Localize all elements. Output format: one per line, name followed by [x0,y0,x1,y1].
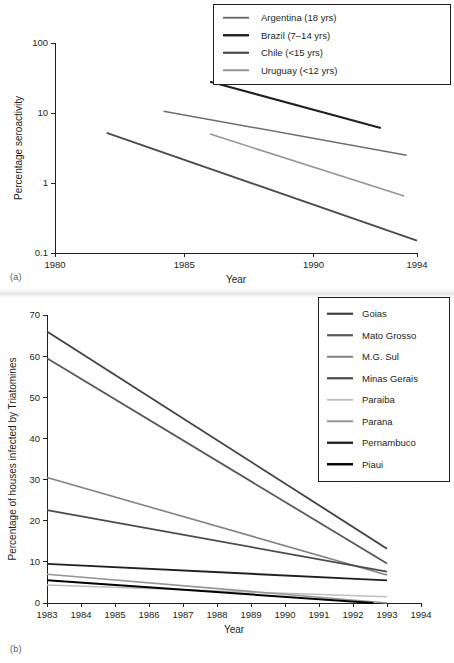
x-tick-label: 1991 [308,609,329,620]
y-axis-title: Percentage of houses infected by Triatom… [7,358,18,561]
y-tick-label: 60 [29,351,40,362]
y-tick-label: 10 [37,107,48,118]
y-tick-label: 40 [29,433,40,444]
figure-container: 0.11101001980198519901994YearPercentage … [0,0,454,663]
legend-label: Argentina (18 yrs) [261,12,337,23]
legend-label: M.G. Sul [362,351,399,362]
series-line-uruguay-12-yrs [210,134,404,196]
x-tick-label: 1992 [342,609,363,620]
series-line-brazil-7-14-yrs [210,82,381,128]
x-tick-label: 1987 [172,609,193,620]
legend-box [318,297,449,481]
series-line-argentina-18-yrs [164,111,407,155]
y-tick-label: 1 [43,177,48,188]
y-tick-label: 0.1 [35,247,48,258]
legend-label: Mato Grosso [362,330,416,341]
triatomine-infestation-chart: 0102030405060701983198419851986198719881… [0,292,454,663]
x-tick-label: 1990 [274,609,295,620]
x-axis-title: Year [226,274,247,285]
panel-b-label: (b) [10,644,22,654]
x-tick-label: 1986 [138,609,159,620]
legend-label: Paraiba [362,394,395,405]
seroactivity-chart: 0.11101001980198519901994YearPercentage … [0,0,454,292]
y-tick-label: 100 [32,37,48,48]
x-tick-label: 1985 [174,259,195,270]
x-tick-label: 1980 [44,259,65,270]
y-tick-label: 20 [29,515,40,526]
x-tick-label: 1994 [410,609,431,620]
y-tick-label: 0 [35,597,40,608]
x-axis-title: Year [224,624,245,635]
x-tick-label: 1990 [303,259,324,270]
chart-panel-b: 0102030405060701983198419851986198719881… [0,292,454,663]
legend-label: Uruguay (<12 yrs) [261,65,337,76]
panel-a-label: (a) [10,272,22,282]
legend-label: Parana [362,416,393,427]
y-tick-label: 50 [29,392,40,403]
y-tick-label: 70 [29,309,40,320]
x-tick-label: 1989 [240,609,261,620]
legend-label: Piaui [362,459,383,470]
x-tick-label: 1985 [104,609,125,620]
series-line-paraiba [47,585,387,597]
y-axis-title: Percentage seroactivity [13,96,24,200]
x-tick-label: 1983 [36,609,57,620]
chart-panel-a: 0.11101001980198519901994YearPercentage … [0,0,454,292]
x-tick-label: 1993 [376,609,397,620]
legend-label: Brazil (7–14 yrs) [261,30,330,41]
series-line-piaui [47,580,373,603]
legend-label: Minas Gerais [362,373,418,384]
x-tick-label: 1994 [406,259,427,270]
series-line-minas-gerais [47,510,387,572]
y-tick-label: 30 [29,474,40,485]
y-tick-label: 10 [29,556,40,567]
series-line-m-g-sul [47,478,387,576]
legend-label: Goias [362,308,387,319]
legend-label: Pernambuco [362,437,416,448]
x-tick-label: 1984 [70,609,91,620]
x-tick-label: 1988 [206,609,227,620]
legend-label: Chile (<15 yrs) [261,47,323,58]
